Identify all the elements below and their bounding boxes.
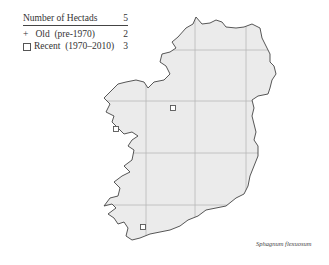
- legend-row-recent: Recent (1970–2010) 3: [23, 40, 128, 52]
- legend-recent-count: 3: [123, 40, 128, 52]
- record-square-marker: [141, 225, 146, 230]
- record-square-marker: [114, 127, 119, 132]
- legend-header-count: 5: [123, 13, 128, 23]
- legend-recent-label: Recent (1970–2010): [34, 41, 114, 51]
- species-name: Sphagnum flexuosum: [256, 240, 311, 247]
- legend-old-count: 2: [123, 28, 128, 40]
- plus-icon: +: [23, 28, 33, 40]
- square-icon: [23, 43, 31, 51]
- legend: Number of Hectads 5 + Old (pre-1970) 2 R…: [23, 13, 128, 52]
- ireland-land: [104, 17, 276, 240]
- record-square-marker: [171, 106, 176, 111]
- legend-old-label: Old (pre-1970): [35, 29, 95, 39]
- legend-header-label: Number of Hectads: [23, 13, 97, 23]
- legend-header: Number of Hectads 5: [23, 13, 128, 26]
- legend-row-old: + Old (pre-1970) 2: [23, 28, 128, 40]
